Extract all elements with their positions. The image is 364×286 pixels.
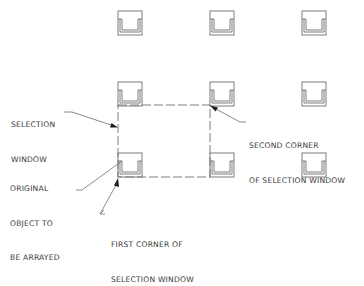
first-corner-label-line2: SELECTION WINDOW <box>111 274 194 286</box>
array-copy <box>210 82 234 106</box>
selection-window-rectangle <box>118 105 210 177</box>
original-object-label-line1: ORIGINAL <box>10 183 60 195</box>
selection-window-label-line1: SELECTION <box>11 119 55 131</box>
second-corner-label-line2: OF SELECTION WINDOW <box>249 175 345 187</box>
array-copy <box>210 153 234 177</box>
first-corner-arrowhead <box>114 178 119 187</box>
first-corner-label-line1: FIRST CORNER OF <box>111 239 194 251</box>
array-copy <box>118 82 142 106</box>
second-corner-label-line1: SECOND CORNER <box>249 140 345 152</box>
selection-window-arrowhead <box>110 123 118 128</box>
array-copy <box>118 11 142 35</box>
original-object <box>118 153 142 177</box>
array-copy <box>302 11 326 35</box>
original-object-label-line3: BE ARRAYED <box>10 252 60 264</box>
original-object-label-line2: OBJECT TO <box>10 218 60 230</box>
array-copy <box>302 82 326 106</box>
second-corner-leader <box>214 108 246 122</box>
first-corner-leader <box>100 185 116 214</box>
second-corner-label: SECOND CORNER OF SELECTION WINDOW <box>249 117 345 198</box>
selection-window-leader <box>64 112 114 126</box>
array-copy <box>210 11 234 35</box>
original-object-label: ORIGINAL OBJECT TO BE ARRAYED <box>10 160 60 275</box>
first-corner-label: FIRST CORNER OF SELECTION WINDOW <box>111 216 194 286</box>
